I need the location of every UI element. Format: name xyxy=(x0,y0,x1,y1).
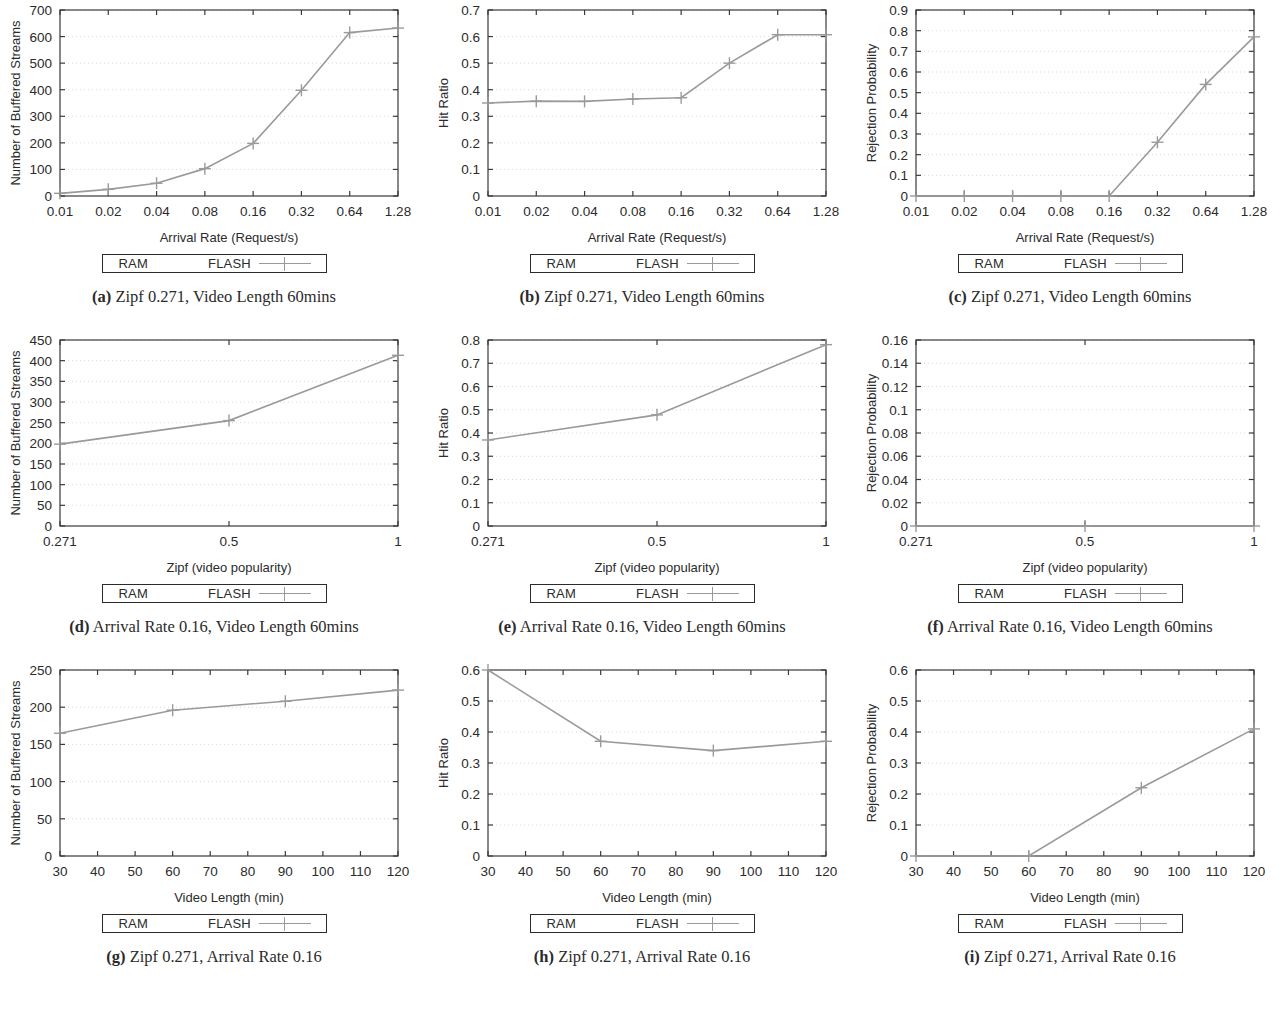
legend-ram-label: RAM xyxy=(103,586,149,601)
y-tick-label: 0.4 xyxy=(461,83,480,98)
legend-ram-label: RAM xyxy=(959,586,1005,601)
x-tick-label: 30 xyxy=(908,864,923,879)
y-tick-label: 0.2 xyxy=(461,787,480,802)
legend-flash-sample-icon xyxy=(259,917,311,931)
chart-i: 00.10.20.30.40.50.6304050607080901001101… xyxy=(856,660,1284,910)
x-tick-label: 1 xyxy=(822,534,830,549)
x-tick-label: 0.04 xyxy=(571,204,598,219)
legend-flash-sample-icon xyxy=(687,917,739,931)
panel-d: 0501001502002503003504004500.2710.51Zipf… xyxy=(0,330,428,660)
y-tick-label: 0.5 xyxy=(461,403,480,418)
x-axis-title: Zipf (video popularity) xyxy=(167,560,292,575)
chart-svg-e: 00.10.20.30.40.50.60.70.80.2710.51Zipf (… xyxy=(428,330,856,580)
data-point-marker xyxy=(595,735,607,747)
series-flash xyxy=(910,31,1260,202)
y-tick-label: 200 xyxy=(29,436,52,451)
chart-svg-h: 00.10.20.30.40.50.6304050607080901001101… xyxy=(428,660,856,910)
x-tick-label: 80 xyxy=(1096,864,1111,879)
y-tick-label: 0 xyxy=(472,189,480,204)
y-axis-title: Number of Buffered Streams xyxy=(8,350,23,516)
data-point-marker xyxy=(723,57,735,69)
y-tick-label: 0.1 xyxy=(889,403,908,418)
data-point-marker xyxy=(579,95,591,107)
gridlines xyxy=(916,670,1254,825)
chart-svg-c: 00.10.20.30.40.50.60.70.80.90.010.020.04… xyxy=(856,0,1284,250)
x-tick-label: 100 xyxy=(740,864,763,879)
y-tick-label: 0 xyxy=(900,849,908,864)
data-point-marker xyxy=(223,415,235,427)
y-tick-label: 0 xyxy=(44,189,52,204)
chart-c: 00.10.20.30.40.50.60.70.80.90.010.020.04… xyxy=(856,0,1284,250)
y-axis: 00.10.20.30.40.50.6 xyxy=(889,663,1254,864)
data-point-marker xyxy=(820,29,832,41)
x-tick-label: 40 xyxy=(946,864,961,879)
legend-flash-label: FLASH xyxy=(208,586,251,601)
y-tick-label: 0 xyxy=(44,849,52,864)
legend-ram-label: RAM xyxy=(103,256,149,271)
x-tick-label: 1.28 xyxy=(385,204,411,219)
y-tick-label: 0.6 xyxy=(461,663,480,678)
gridlines xyxy=(60,670,398,819)
x-axis-title: Zipf (video popularity) xyxy=(1023,560,1148,575)
y-axis: 050100150200250 xyxy=(29,663,398,864)
y-axis: 00.020.040.060.080.10.120.140.16 xyxy=(882,333,1254,534)
caption-g: (g) Zipf 0.271, Arrival Rate 0.16 xyxy=(106,947,321,967)
x-tick-label: 70 xyxy=(631,864,646,879)
legend-a: RAM FLASH xyxy=(102,254,327,273)
x-tick-label: 0.01 xyxy=(903,204,929,219)
y-tick-label: 0.12 xyxy=(882,380,908,395)
x-tick-label: 0.64 xyxy=(1193,204,1220,219)
chart-svg-g: 05010015020025030405060708090100110120Vi… xyxy=(0,660,428,910)
legend-flash-label: FLASH xyxy=(636,256,679,271)
data-point-marker xyxy=(627,93,639,105)
caption-d: (d) Arrival Rate 0.16, Video Length 60mi… xyxy=(69,617,358,637)
y-tick-label: 450 xyxy=(29,333,52,348)
y-tick-label: 600 xyxy=(29,30,52,45)
x-tick-label: 40 xyxy=(90,864,105,879)
y-tick-label: 0.4 xyxy=(889,725,908,740)
caption-h: (h) Zipf 0.271, Arrival Rate 0.16 xyxy=(534,947,750,967)
y-axis-title: Rejection Probability xyxy=(864,373,879,492)
y-tick-label: 0.5 xyxy=(461,56,480,71)
chart-d: 0501001502002503003504004500.2710.51Zipf… xyxy=(0,330,428,580)
x-tick-label: 0.5 xyxy=(648,534,667,549)
legend-flash-label: FLASH xyxy=(1064,256,1107,271)
x-tick-label: 0.32 xyxy=(716,204,742,219)
data-point-marker xyxy=(530,95,542,107)
data-point-marker xyxy=(1023,850,1035,862)
x-tick-label: 30 xyxy=(52,864,67,879)
caption-tag-d: (d) xyxy=(69,617,89,636)
data-point-marker xyxy=(54,727,66,739)
x-tick-label: 1.28 xyxy=(1241,204,1267,219)
x-tick-label: 0.16 xyxy=(1096,204,1122,219)
panel-i: 00.10.20.30.40.50.6304050607080901001101… xyxy=(856,660,1284,1010)
gridlines xyxy=(488,10,826,169)
caption-c: (c) Zipf 0.271, Video Length 60mins xyxy=(949,287,1192,307)
series-flash xyxy=(54,684,404,739)
legend-flash-label: FLASH xyxy=(208,256,251,271)
y-tick-label: 0.2 xyxy=(461,473,480,488)
x-tick-label: 30 xyxy=(480,864,495,879)
data-point-marker xyxy=(1248,723,1260,735)
y-tick-label: 200 xyxy=(29,136,52,151)
x-axis: 0.010.020.040.080.160.320.641.28 xyxy=(903,10,1267,219)
x-tick-label: 60 xyxy=(165,864,180,879)
y-tick-label: 0.1 xyxy=(889,168,908,183)
data-point-marker xyxy=(392,684,404,696)
y-tick-label: 200 xyxy=(29,700,52,715)
gridlines xyxy=(916,10,1254,175)
y-tick-label: 0.6 xyxy=(461,380,480,395)
x-axis-title: Video Length (min) xyxy=(1030,890,1140,905)
x-tick-label: 0.04 xyxy=(999,204,1026,219)
data-point-marker xyxy=(910,190,922,202)
y-tick-label: 0 xyxy=(900,519,908,534)
x-axis: 0.010.020.040.080.160.320.641.28 xyxy=(47,10,411,219)
y-tick-label: 0 xyxy=(472,519,480,534)
x-axis: 30405060708090100110120 xyxy=(480,670,837,879)
x-tick-label: 0.271 xyxy=(899,534,933,549)
data-point-marker xyxy=(392,22,404,34)
caption-e: (e) Arrival Rate 0.16, Video Length 60mi… xyxy=(498,617,785,637)
y-tick-label: 0.02 xyxy=(882,496,908,511)
chart-svg-i: 00.10.20.30.40.50.6304050607080901001101… xyxy=(856,660,1284,910)
y-tick-label: 0.4 xyxy=(461,725,480,740)
